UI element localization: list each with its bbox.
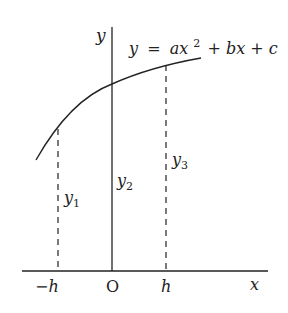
origin-label: O — [106, 277, 119, 296]
y1-label: y1 — [63, 188, 80, 210]
x-axis-label: x — [250, 275, 259, 294]
equation-rest: + bx + c — [207, 39, 277, 58]
tick-pos-h: h — [161, 277, 171, 296]
equation-lhs: y — [128, 39, 139, 58]
equation-equals: = — [147, 39, 160, 58]
y3-label: y3 — [171, 150, 188, 172]
equation-ax: ax — [170, 39, 189, 58]
tick-neg-h: −h — [35, 277, 59, 296]
svg-text:y = ax 2: y = ax 2 + bx + c — [128, 32, 278, 58]
equation-exponent: 2 — [193, 37, 200, 50]
y2-label: y2 — [116, 171, 133, 193]
parabola-curve — [36, 58, 201, 160]
y-axis-label: y — [95, 25, 106, 45]
equation-label: y = ax 2 + bx + c — [128, 32, 278, 58]
parabola-diagram: y y = ax 2 + bx + c y1 y2 y3 −h O h x — [0, 0, 288, 313]
